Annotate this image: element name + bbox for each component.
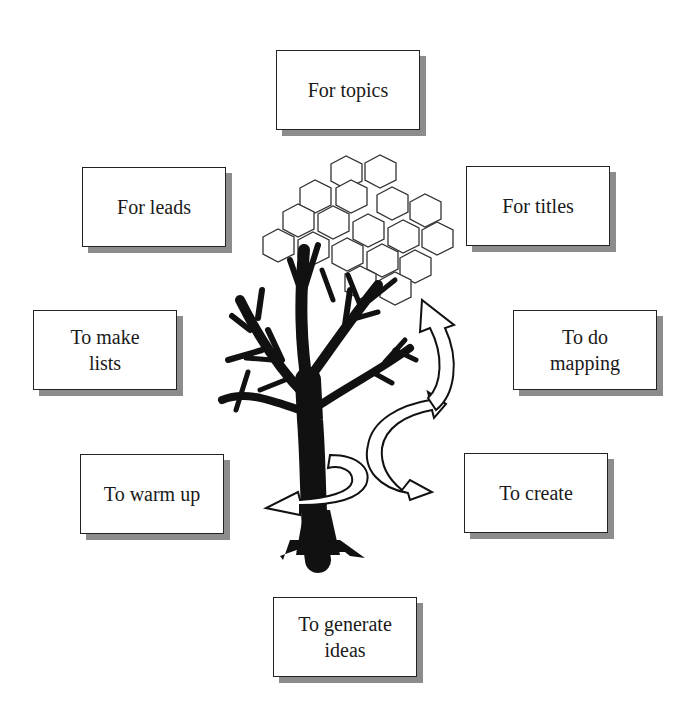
box-label: For topics: [308, 77, 389, 103]
box-for-titles: For titles: [466, 166, 610, 246]
box-to-create: To create: [464, 453, 608, 533]
box-for-leads: For leads: [82, 167, 226, 247]
box-label: To do mapping: [535, 324, 635, 376]
box-label: For titles: [502, 193, 574, 219]
honeycomb-icon: [263, 155, 453, 305]
box-to-generate-ideas: To generate ideas: [273, 597, 417, 677]
box-label: To create: [499, 480, 573, 506]
box-to-do-mapping: To do mapping: [513, 310, 657, 390]
box-label: For leads: [117, 194, 191, 220]
box-for-topics: For topics: [276, 50, 420, 130]
box-to-make-lists: To make lists: [33, 310, 177, 390]
box-to-warm-up: To warm up: [80, 454, 224, 534]
box-label: To warm up: [104, 481, 200, 507]
box-label: To generate ideas: [283, 611, 407, 663]
box-label: To make lists: [55, 324, 155, 376]
